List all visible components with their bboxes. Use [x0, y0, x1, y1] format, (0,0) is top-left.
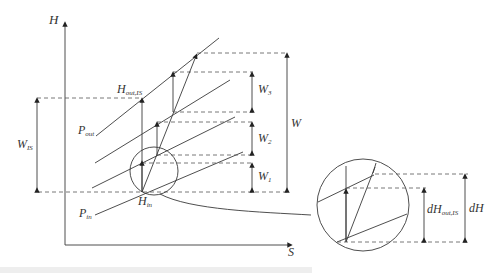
- zoom-detail: [318, 163, 468, 242]
- w-label: W: [291, 116, 302, 130]
- zoom-connector: [160, 194, 311, 215]
- dh-out-is-label: dHout,IS: [427, 202, 459, 217]
- w-is-label: WIS: [17, 137, 33, 152]
- h-in-label: Hin: [137, 194, 153, 209]
- w3-label: W3: [258, 82, 272, 97]
- y-axis-label: H: [48, 12, 59, 27]
- w1-label: W1: [258, 169, 272, 184]
- isobar-2: [95, 80, 230, 163]
- bottom-strip: [0, 267, 312, 273]
- dh-label: dH: [469, 201, 485, 215]
- p-in-label: Pin: [78, 206, 92, 221]
- isobars: [92, 38, 243, 215]
- zoom-circle-small: [130, 147, 178, 195]
- isobar-p-in: [95, 152, 243, 215]
- h-out-is-label: Hout,IS: [116, 82, 143, 97]
- w2-label: W2: [258, 131, 272, 146]
- x-axis-label: S: [288, 245, 294, 259]
- actual-path-arrow: [142, 56, 196, 192]
- process-arrows: [142, 56, 196, 192]
- isobar-3: [92, 117, 235, 188]
- zoom-circle-large: [317, 159, 409, 251]
- p-out-label: Pout: [77, 123, 95, 138]
- hs-diagram: H S: [0, 0, 498, 273]
